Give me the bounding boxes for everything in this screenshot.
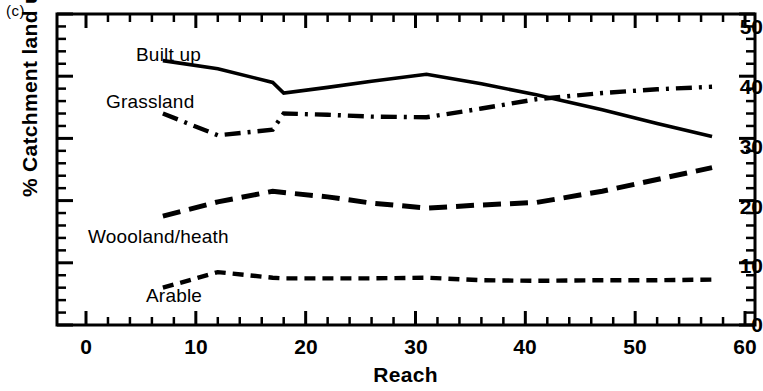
series-line-grassland — [163, 87, 712, 136]
series-lines — [163, 61, 712, 288]
plot-canvas — [0, 0, 763, 391]
series-line-arable — [163, 272, 712, 288]
series-line-built-up — [163, 61, 712, 137]
chart-figure: (c) % Catchment land use Reach 50 40 30 … — [0, 0, 763, 391]
series-line-woooland-heath — [163, 168, 712, 217]
